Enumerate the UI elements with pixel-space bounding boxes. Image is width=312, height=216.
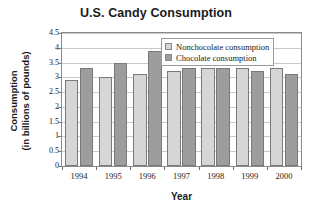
y-axis-tick-label: 0.5 <box>37 147 59 155</box>
y-axis-tick-label: 1.5 <box>37 118 59 126</box>
y-axis-tick-mark <box>58 136 61 137</box>
x-axis-tick-label: 1995 <box>96 171 130 181</box>
bar <box>133 74 147 166</box>
bar <box>65 80 79 166</box>
y-axis-tick-label: 3 <box>37 73 59 81</box>
legend-label: Nonchocolate consumption <box>176 42 269 52</box>
y-axis-tick-mark <box>58 63 61 64</box>
x-axis-tick-label: 1994 <box>62 171 96 181</box>
x-axis-tick-label: 1999 <box>233 171 267 181</box>
legend-label: Chocolate consumption <box>176 53 257 63</box>
y-axis-title-line1: Consumption <box>8 51 20 150</box>
chart-legend: Nonchocolate consumption Chocolate consu… <box>161 38 274 66</box>
y-axis-tick-mark <box>58 151 61 152</box>
bar <box>285 74 299 166</box>
chart-page: U.S. Candy Consumption Consumption (in b… <box>0 0 312 216</box>
bar <box>201 68 215 166</box>
y-axis-tick-label: 4.5 <box>37 29 59 37</box>
y-axis-tick-label: 4 <box>37 44 59 52</box>
x-axis-tick-mark <box>199 167 200 170</box>
y-axis-tick-label: 3.5 <box>37 59 59 67</box>
bar <box>148 51 162 166</box>
legend-item: Chocolate consumption <box>165 52 269 63</box>
y-axis-tick-mark <box>58 48 61 49</box>
x-axis-tick-label: 1996 <box>130 171 164 181</box>
legend-swatch-nonchocolate-icon <box>165 43 172 50</box>
y-axis-tick-mark <box>58 92 61 93</box>
x-axis-tick-mark <box>233 167 234 170</box>
x-axis-tick-mark <box>130 167 131 170</box>
y-axis-title-line2: (in billions of pounds) <box>19 51 31 150</box>
bar <box>270 68 284 166</box>
x-axis-title: Year <box>61 191 302 202</box>
y-axis-tick-mark <box>58 77 61 78</box>
bar <box>251 71 265 166</box>
y-axis-title: Consumption (in billions of pounds) <box>2 28 36 173</box>
bar <box>80 68 94 166</box>
y-axis-tick-label: 0 <box>37 162 59 170</box>
y-axis-tick-label: 2 <box>37 103 59 111</box>
y-axis-tick-mark <box>58 122 61 123</box>
bar <box>182 68 196 166</box>
chart-title: U.S. Candy Consumption <box>0 6 312 20</box>
y-axis-tick-label: 1 <box>37 132 59 140</box>
y-axis-tick-mark <box>58 33 61 34</box>
bar <box>99 77 113 166</box>
bar <box>167 71 181 166</box>
x-axis-tick-mark <box>301 167 302 170</box>
x-axis-tick-label: 1998 <box>199 171 233 181</box>
x-axis-tick-mark <box>96 167 97 170</box>
bar <box>114 63 128 166</box>
legend-item: Nonchocolate consumption <box>165 41 269 52</box>
y-axis-tick-mark <box>58 166 61 167</box>
y-axis-tick-labels: 00.511.522.533.544.5 <box>34 32 59 167</box>
bar <box>216 68 230 166</box>
y-axis-tick-label: 2.5 <box>37 88 59 96</box>
y-axis-tick-mark <box>58 107 61 108</box>
x-axis-tick-mark <box>164 167 165 170</box>
x-axis-tick-label: 2000 <box>267 171 301 181</box>
legend-swatch-chocolate-icon <box>165 54 172 61</box>
x-axis-tick-mark <box>62 167 63 170</box>
x-axis-tick-label: 1997 <box>165 171 199 181</box>
bar <box>236 68 250 166</box>
x-axis-tick-mark <box>267 167 268 170</box>
